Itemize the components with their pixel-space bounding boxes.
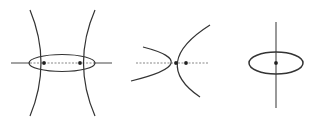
focus-point-left [43,62,46,65]
figure-parabola-pair [131,25,210,97]
focus-point-right [79,62,82,65]
parabola-right-opening [177,25,210,97]
figure-ellipse-with-vertical-axis [249,22,303,108]
parabola-left-opening [131,47,171,81]
center-point [275,62,278,65]
diagram-canvas [0,0,315,122]
point-right [185,62,188,65]
point-left [175,62,178,65]
figure-hyperbola-with-ellipse [11,10,112,116]
